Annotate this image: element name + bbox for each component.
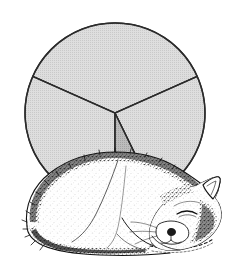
illustration-canvas: Sleeping cat in front of a three-slice p…: [0, 0, 240, 277]
cat-and-pie-chart-illustration: [0, 0, 240, 277]
